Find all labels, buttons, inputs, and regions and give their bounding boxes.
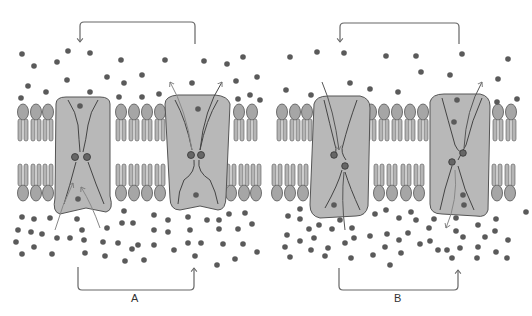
panel-label-b: B (394, 292, 401, 304)
channel-protein-b1 (310, 82, 370, 230)
bottom-bracket-arrow-a (78, 267, 194, 290)
channel-protein-a2 (165, 82, 230, 210)
top-bracket-arrow-b (340, 23, 459, 44)
panel-b (272, 23, 529, 290)
particles-inside-a (13, 208, 260, 268)
channel-protein-a1 (54, 97, 111, 230)
panel-a (13, 22, 263, 290)
particles-outside-a (18, 48, 263, 103)
membrane-transport-diagram (0, 0, 532, 316)
bottom-bracket-arrow-b (339, 268, 458, 290)
top-bracket-arrow-a (80, 22, 195, 44)
channel-protein-b2 (430, 82, 490, 228)
panel-label-a: A (131, 292, 138, 304)
